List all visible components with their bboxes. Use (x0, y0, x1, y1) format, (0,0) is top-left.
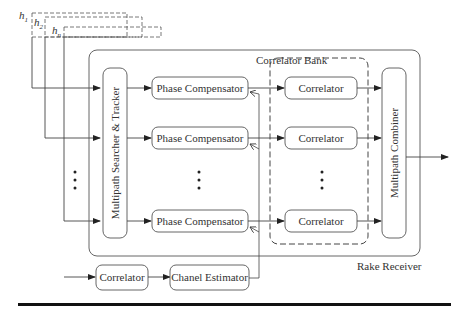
bottom-rule (18, 303, 451, 306)
correlator-bank-label: Correlator Bank (256, 54, 328, 66)
svg-text:Phase Compensator: Phase Compensator (156, 82, 243, 94)
searcher-to-phase-arrows (127, 88, 151, 221)
svg-text:Correlator: Correlator (99, 271, 145, 283)
rake-receiver-diagram: h1 h2 hn Correlator Bank Rake Receiver M… (0, 0, 466, 314)
correlator-n: Correlator (285, 210, 357, 232)
ellipsis-dots-middle (198, 171, 201, 190)
bottom-correlator: Correlator (96, 265, 148, 290)
multipath-combiner-label: Multipath Combiner (388, 108, 400, 198)
phase-compensator-1: Phase Compensator (152, 77, 248, 99)
ellipsis-dots-left (74, 171, 77, 190)
rake-receiver-box (89, 50, 420, 256)
svg-text:Phase Compensator: Phase Compensator (156, 132, 243, 144)
phase-to-correlator-arrows (248, 88, 284, 221)
svg-text:Correlator: Correlator (298, 82, 344, 94)
h2-label: h2 (34, 16, 44, 31)
multipath-searcher-label: Multipath Searcher & Tracker (109, 87, 121, 220)
rake-receiver-label: Rake Receiver (357, 260, 422, 272)
correlator-to-combiner-arrows (357, 88, 381, 221)
estimator-feedback-lines (249, 92, 259, 278)
correlator-2: Correlator (285, 127, 357, 149)
input-lines (32, 37, 100, 221)
ellipsis-dots-right (321, 171, 324, 190)
channel-estimator: Chanel Estimator (170, 265, 249, 290)
h1-label: h1 (19, 9, 28, 24)
svg-text:Correlator: Correlator (298, 132, 344, 144)
svg-text:Chanel Estimator: Chanel Estimator (171, 271, 248, 283)
phase-compensator-2: Phase Compensator (152, 127, 248, 149)
svg-text:Phase Compensator: Phase Compensator (156, 215, 243, 227)
phase-compensator-n: Phase Compensator (152, 210, 248, 232)
svg-text:Correlator: Correlator (298, 215, 344, 227)
correlator-1: Correlator (285, 77, 357, 99)
